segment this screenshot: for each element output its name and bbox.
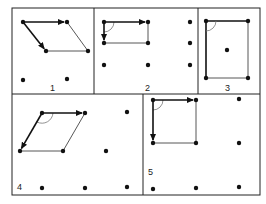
lattice-point: [40, 186, 44, 190]
lattice-point: [83, 111, 87, 115]
lattice-point: [194, 98, 198, 102]
panel-label: 3: [225, 83, 230, 93]
lattice-point: [194, 186, 198, 190]
cell-edge: [67, 22, 88, 51]
lattice-point: [83, 186, 87, 190]
lattice-point: [40, 111, 44, 115]
vector-lattice-figure: 12345: [0, 0, 266, 204]
lattice-point: [237, 185, 241, 189]
basis-vector-arrow: [23, 22, 44, 49]
lattice-point: [21, 78, 25, 82]
lattice-point: [151, 141, 155, 145]
basis-vector-arrow: [22, 113, 42, 148]
panel-3: 3: [204, 19, 250, 93]
lattice-point: [86, 49, 90, 53]
panels: 12345: [17, 19, 250, 192]
lattice-point: [18, 149, 22, 153]
lattice-point: [188, 63, 192, 67]
lattice-point: [125, 110, 129, 114]
lattice-point: [246, 76, 250, 80]
lattice-point: [65, 77, 69, 81]
lattice-point: [151, 187, 155, 191]
lattice-point: [146, 41, 150, 45]
panel-label: 2: [145, 83, 150, 93]
panel-label: 4: [17, 182, 22, 192]
lattice-point: [151, 98, 155, 102]
panel-5: 5: [148, 97, 241, 191]
panel-dividers: [12, 8, 260, 195]
lattice-point: [104, 149, 108, 153]
lattice-point: [102, 63, 106, 67]
panel-4: 4: [17, 110, 129, 192]
panel-label: 5: [148, 167, 153, 177]
lattice-point: [237, 97, 241, 101]
lattice-point: [44, 49, 48, 53]
lattice-point: [204, 19, 208, 23]
lattice-point: [125, 185, 129, 189]
panel-2: 2: [102, 20, 192, 93]
lattice-point: [246, 19, 250, 23]
lattice-point: [225, 48, 229, 52]
lattice-point: [21, 20, 25, 24]
lattice-point: [65, 20, 69, 24]
lattice-point: [146, 20, 150, 24]
lattice-point: [102, 41, 106, 45]
panel-label: 1: [50, 83, 55, 93]
lattice-point: [188, 41, 192, 45]
lattice-point: [237, 141, 241, 145]
lattice-point: [188, 20, 192, 24]
figure-border: [12, 8, 260, 195]
lattice-point: [194, 141, 198, 145]
lattice-point: [146, 63, 150, 67]
lattice-point: [102, 20, 106, 24]
lattice-point: [61, 149, 65, 153]
cell-edge: [63, 113, 85, 151]
lattice-point: [204, 76, 208, 80]
panel-1: 1: [21, 20, 90, 93]
